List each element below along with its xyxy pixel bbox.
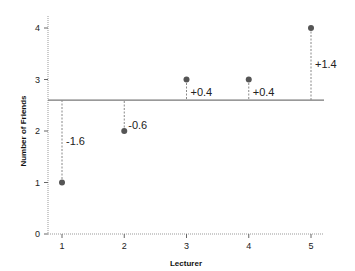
deviation-lines [62, 28, 311, 183]
deviation-label: -0.6 [128, 119, 147, 131]
y-tick-label: 2 [35, 126, 40, 136]
deviation-label: -1.6 [66, 135, 85, 147]
y-tick-label: 3 [35, 75, 40, 85]
y-axis-ticks: 01234 [35, 23, 48, 239]
data-point [246, 77, 252, 83]
data-point [59, 180, 65, 186]
deviation-label: +1.4 [315, 58, 337, 70]
y-tick-label: 1 [35, 178, 40, 188]
x-tick-label: 1 [59, 241, 64, 251]
y-tick-label: 0 [35, 229, 40, 239]
data-point [308, 25, 314, 31]
x-tick-label: 4 [246, 241, 251, 251]
x-axis-ticks: 12345 [59, 234, 313, 251]
deviation-scatter-chart: 01234 12345 -1.6-0.6+0.4+0.4+1.4 Lecture… [0, 0, 355, 271]
x-tick-label: 5 [308, 241, 313, 251]
y-tick-label: 4 [35, 23, 40, 33]
y-axis-title: Number of Friends [19, 95, 28, 167]
data-points [59, 25, 314, 186]
deviation-label: +0.4 [191, 86, 213, 98]
x-tick-label: 2 [122, 241, 127, 251]
x-axis-title: Lecturer [170, 259, 202, 268]
data-point [121, 128, 127, 134]
deviation-labels: -1.6-0.6+0.4+0.4+1.4 [66, 58, 337, 147]
x-tick-label: 3 [184, 241, 189, 251]
data-point [184, 77, 190, 83]
axes [48, 16, 324, 234]
deviation-label: +0.4 [253, 86, 275, 98]
